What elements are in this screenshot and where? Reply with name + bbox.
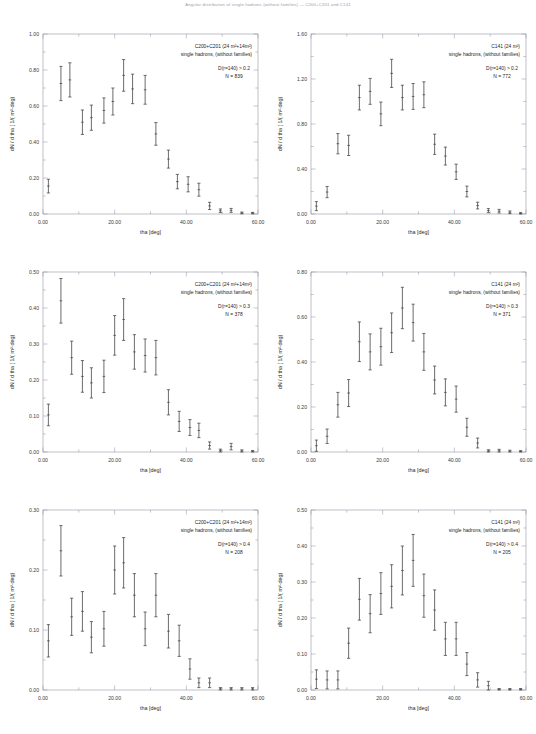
data-point [251, 212, 254, 213]
data-point [208, 202, 211, 209]
data-point [167, 390, 170, 415]
data-point [455, 622, 458, 655]
data-point [315, 440, 318, 451]
x-axis-label: tha [deg] [408, 467, 429, 473]
data-point [111, 88, 114, 115]
y-tick-label: 0.40 [297, 166, 307, 172]
panel-top-left: 0.000.200.400.600.801.000.0020.0040.0060… [0, 18, 268, 256]
annotation-line: N = 839 [225, 74, 243, 79]
data-point [326, 186, 329, 197]
panel-bot-right: 0.000.100.200.300.400.500.0020.0040.0060… [268, 494, 536, 732]
x-tick-label: 40.00 [448, 695, 461, 701]
data-point [154, 123, 157, 146]
data-point [133, 335, 136, 370]
annotation-line: N = 378 [225, 312, 243, 317]
y-tick-label: 1.00 [29, 31, 39, 37]
x-tick-label: 40.00 [180, 695, 193, 701]
data-point [90, 622, 93, 653]
data-point [498, 449, 501, 452]
data-point [113, 546, 116, 594]
data-point [176, 174, 179, 188]
data-point [422, 333, 425, 370]
data-point [102, 611, 105, 646]
y-axis-label: dN / d tha [ 1/( m²·deg) [277, 573, 283, 628]
y-tick-label: 0.00 [297, 687, 307, 693]
data-point [240, 688, 243, 690]
data-point [508, 450, 511, 452]
data-point [444, 147, 447, 165]
data-point [102, 360, 105, 392]
data-point [422, 82, 425, 108]
annotation-line: C141 (24 m²) [491, 520, 520, 525]
x-tick-label: 60.00 [520, 219, 533, 225]
x-tick-label: 40.00 [448, 457, 461, 463]
y-axis-label: dN / d tha [ 1/( m²·deg) [277, 97, 283, 152]
x-tick-label: 20.00 [108, 219, 121, 225]
data-point [144, 339, 147, 372]
data-point [154, 574, 157, 617]
data-point [81, 592, 84, 632]
y-tick-label: 0.30 [29, 507, 39, 513]
y-axis-label: dN / d tha [ 1/( m²·deg) [9, 335, 15, 390]
data-point [498, 689, 501, 690]
panel-bot-left: 0.000.100.200.300.0020.0040.0060.00tha [… [0, 494, 268, 732]
data-point [113, 316, 116, 356]
data-point [369, 595, 372, 633]
data-point [433, 590, 436, 630]
data-point [230, 208, 233, 212]
data-point [390, 313, 393, 353]
annotation-line: C141 (24 m²) [491, 282, 520, 287]
y-tick-label: 0.00 [29, 449, 39, 455]
annotation-line: D(r=140) > 0.2 [486, 66, 518, 71]
data-point [122, 538, 125, 588]
x-axis-label: tha [deg] [140, 229, 161, 235]
data-point [358, 578, 361, 620]
data-point [188, 659, 191, 679]
y-axis-label: dN / d tha [ 1/( m²·deg) [9, 97, 15, 152]
panel-mid-right: 0.000.200.400.600.800.0020.0040.0060.00t… [268, 256, 536, 494]
data-point [465, 653, 468, 676]
data-point [390, 59, 393, 87]
x-tick-label: 40.00 [180, 457, 193, 463]
y-tick-label: 0.40 [297, 359, 307, 365]
data-point [59, 526, 62, 576]
annotation-line: single hadrons, (without families) [449, 528, 521, 533]
y-tick-label: 0.20 [297, 404, 307, 410]
data-point [81, 110, 84, 134]
data-point [230, 443, 233, 449]
y-tick-label: 0.40 [297, 543, 307, 549]
y-tick-label: 0.00 [29, 687, 39, 693]
data-point [197, 423, 200, 437]
data-point [122, 299, 125, 341]
y-tick-label: 0.60 [297, 314, 307, 320]
annotation-line: D(r=140) > 0.4 [486, 542, 518, 547]
data-point [178, 411, 181, 431]
annotation-line: C200+C201 (24 m²+14m²) [195, 282, 253, 287]
data-point [433, 134, 436, 154]
data-point [433, 366, 436, 394]
panel-mid-left-canvas: 0.000.100.200.300.400.500.0020.0040.0060… [0, 256, 268, 494]
x-tick-label: 60.00 [252, 219, 265, 225]
data-point [455, 164, 458, 179]
data-point [47, 404, 50, 426]
annotation-line: single hadrons, (without families) [449, 52, 521, 57]
y-tick-label: 0.10 [29, 627, 39, 633]
y-tick-label: 0.30 [29, 341, 39, 347]
data-point [444, 622, 447, 655]
data-point [326, 429, 329, 443]
annotation-line: single hadrons, (without families) [181, 290, 253, 295]
data-point [379, 573, 382, 615]
data-point [401, 85, 404, 110]
data-point [81, 361, 84, 393]
y-tick-label: 0.50 [29, 269, 39, 275]
data-point [336, 392, 339, 417]
annotation-line: D(r=140) > 0.3 [218, 304, 250, 309]
x-tick-label: 40.00 [180, 219, 193, 225]
panel-top-right: 0.000.400.801.201.600.0020.0040.0060.00t… [268, 18, 536, 256]
y-tick-label: 0.00 [297, 449, 307, 455]
annotation-line: N = 772 [493, 74, 511, 79]
y-tick-label: 0.80 [29, 67, 39, 73]
annotation-line: D(r=140) > 0.2 [218, 66, 250, 71]
y-axis-label: dN / d tha [ 1/( m²·deg) [9, 573, 15, 628]
data-point [455, 386, 458, 412]
